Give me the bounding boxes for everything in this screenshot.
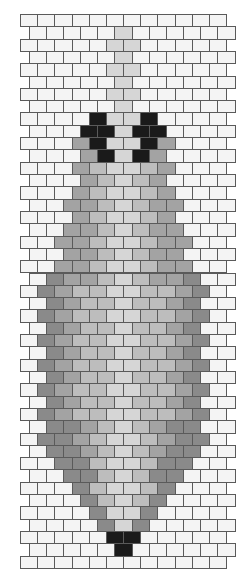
bead-brick	[106, 334, 124, 347]
bead-brick	[166, 51, 184, 64]
bead-brick	[20, 63, 38, 76]
bead-brick	[209, 236, 227, 249]
bead-brick	[89, 162, 107, 175]
bead-brick	[123, 531, 141, 544]
bead-brick	[37, 162, 55, 175]
bead-brick	[114, 199, 132, 212]
bead-brick	[140, 433, 158, 446]
bead-brick	[37, 531, 55, 544]
bead-brick	[89, 334, 107, 347]
bead-brick	[29, 149, 47, 162]
bead-brick	[20, 408, 38, 421]
bead-brick	[29, 174, 47, 187]
bead-brick	[89, 383, 107, 396]
bead-brick	[54, 285, 72, 298]
bead-brick	[106, 236, 124, 249]
bead-brick	[89, 433, 107, 446]
bead-brick	[175, 211, 193, 224]
bead-brick	[46, 543, 64, 556]
bead-brick	[217, 199, 235, 212]
bead-brick	[132, 371, 150, 384]
bead-brick	[72, 88, 90, 101]
bead-brick	[157, 556, 175, 569]
bead-brick	[54, 556, 72, 569]
bead-brick	[29, 100, 47, 113]
bead-brick	[29, 371, 47, 384]
bead-brick	[123, 39, 141, 52]
bead-brick	[149, 396, 167, 409]
bead-brick	[29, 125, 47, 138]
bead-brick	[166, 469, 184, 482]
bead-brick	[149, 149, 167, 162]
bead-brick	[140, 260, 158, 273]
bead-brick	[29, 543, 47, 556]
bead-brick	[183, 543, 201, 556]
bead-brick	[80, 346, 98, 359]
bead-brick	[183, 494, 201, 507]
bead-brick	[72, 112, 90, 125]
bead-brick	[29, 51, 47, 64]
bead-brick	[29, 445, 47, 458]
bead-brick	[80, 223, 98, 236]
bead-brick	[157, 63, 175, 76]
bead-brick	[209, 137, 227, 150]
bead-brick	[72, 482, 90, 495]
bead-brick	[114, 174, 132, 187]
bead-brick	[63, 346, 81, 359]
bead-brick	[97, 174, 115, 187]
bead-brick	[89, 186, 107, 199]
bead-brick	[209, 506, 227, 519]
bead-brick	[200, 445, 218, 458]
bead-brick	[63, 26, 81, 39]
bead-brick	[37, 457, 55, 470]
bead-brick	[89, 112, 107, 125]
bead-brick	[123, 88, 141, 101]
bead-brick	[20, 433, 38, 446]
bead-brick	[46, 469, 64, 482]
bead-brick	[157, 112, 175, 125]
bead-brick	[54, 457, 72, 470]
bead-brick	[106, 408, 124, 421]
bead-brick	[149, 469, 167, 482]
bead-brick	[192, 260, 210, 273]
bead-brick	[63, 125, 81, 138]
bead-brick	[149, 76, 167, 89]
bead-brick	[123, 285, 141, 298]
bead-brick	[192, 531, 210, 544]
bead-brick	[80, 543, 98, 556]
bead-brick	[132, 297, 150, 310]
bead-brick	[183, 519, 201, 532]
bead-brick	[175, 112, 193, 125]
bead-brick	[20, 285, 38, 298]
bead-brick	[20, 88, 38, 101]
bead-brick	[192, 556, 210, 569]
bead-brick	[46, 273, 64, 286]
bead-brick	[89, 211, 107, 224]
bead-brick	[46, 149, 64, 162]
bead-brick	[72, 408, 90, 421]
bead-brick	[29, 199, 47, 212]
bead-brick	[72, 14, 90, 27]
bead-brick	[97, 469, 115, 482]
bead-brick	[123, 433, 141, 446]
bead-brick	[63, 543, 81, 556]
bead-brick	[132, 248, 150, 261]
bead-brick	[157, 531, 175, 544]
bead-brick	[89, 63, 107, 76]
bead-brick	[29, 469, 47, 482]
bead-brick	[20, 457, 38, 470]
bead-brick	[166, 494, 184, 507]
bead-brick	[63, 199, 81, 212]
bead-brick	[175, 457, 193, 470]
bead-brick	[192, 334, 210, 347]
bead-brick	[183, 420, 201, 433]
bead-brick	[192, 14, 210, 27]
bead-brick	[80, 420, 98, 433]
bead-brick	[217, 100, 235, 113]
bead-brick	[175, 383, 193, 396]
bead-brick	[46, 223, 64, 236]
bead-brick	[46, 100, 64, 113]
bead-brick	[37, 63, 55, 76]
bead-brick	[209, 531, 227, 544]
bead-brick	[166, 371, 184, 384]
